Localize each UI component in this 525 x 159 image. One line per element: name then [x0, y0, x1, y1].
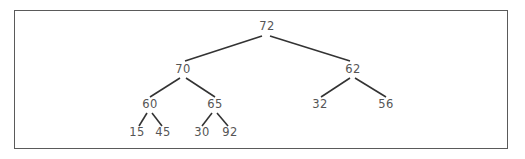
- tree-edge: [186, 78, 215, 97]
- tree-edge: [150, 78, 180, 97]
- tree-node-leaf: 15: [129, 127, 145, 139]
- tree-node: 70: [175, 64, 191, 76]
- tree-edge: [185, 36, 262, 61]
- tree-node-leaf: 92: [222, 127, 238, 139]
- tree-edge: [202, 113, 212, 126]
- tree-node: 65: [207, 99, 223, 111]
- tree-edge: [217, 113, 228, 126]
- tree-node-leaf: 56: [378, 99, 394, 111]
- tree-node-leaf: 32: [312, 99, 328, 111]
- tree-edge: [270, 36, 350, 61]
- tree-edge: [139, 113, 147, 126]
- tree-node-root: 72: [259, 21, 275, 33]
- tree-edge: [152, 113, 162, 126]
- tree-edge: [321, 78, 350, 97]
- tree-node-leaf: 45: [155, 127, 171, 139]
- tree-node: 60: [142, 99, 158, 111]
- tree-edge: [355, 78, 386, 97]
- tree-node: 62: [345, 64, 361, 76]
- tree-node-leaf: 30: [194, 127, 210, 139]
